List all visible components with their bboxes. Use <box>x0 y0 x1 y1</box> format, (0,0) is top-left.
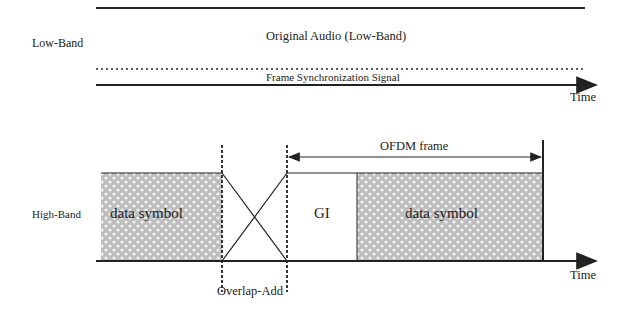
ofdm-frame-label: OFDM frame <box>380 139 448 154</box>
low-band-label: Low-Band <box>32 36 83 51</box>
diagram-canvas <box>0 0 632 316</box>
overlap-add-label: Overlap-Add <box>217 284 283 299</box>
high-band-label: High-Band <box>32 208 81 220</box>
data-symbol-right-label: data symbol <box>405 205 478 222</box>
low-band-time-label: Time <box>570 90 596 105</box>
data-symbol-left-label: data symbol <box>110 205 183 222</box>
frame-sync-label: Frame Synchronization Signal <box>266 71 400 83</box>
gi-label: GI <box>314 205 330 222</box>
original-audio-label: Original Audio (Low-Band) <box>266 29 406 44</box>
high-band-time-label: Time <box>570 268 596 283</box>
